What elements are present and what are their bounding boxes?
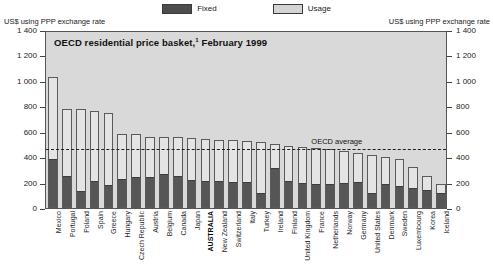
- y-tick-left-1200: [40, 56, 45, 57]
- bar-ireland: [270, 144, 280, 208]
- chart-root: Fixed Usage US$ using PPP exchange rate …: [0, 0, 493, 276]
- bar-series-container: [46, 32, 446, 208]
- x-label-poland: Poland: [83, 211, 90, 233]
- y-tick-right-600: [447, 133, 452, 134]
- bar-spain: [90, 111, 100, 208]
- y-tick-left-400: [40, 158, 45, 159]
- y-axis-caption-left: US$ using PPP exchange rate: [4, 17, 105, 26]
- bar-denmark: [381, 157, 391, 208]
- x-label-iceland: Iceland: [443, 211, 450, 234]
- bar-fixed-segment: [229, 182, 237, 207]
- legend-entry-fixed: Fixed: [162, 4, 217, 14]
- bar-greece: [104, 113, 114, 208]
- chart-legend: Fixed Usage: [0, 4, 493, 14]
- y-tick-label-right-400: 400: [456, 153, 469, 162]
- bar-fixed-segment: [326, 184, 334, 207]
- x-label-united-kingdom: United Kingdom: [304, 211, 311, 261]
- x-label-turkey: Turkey: [263, 211, 270, 232]
- bar-mexico: [48, 77, 58, 208]
- bar-fixed-segment: [188, 180, 196, 207]
- y-tick-label-left-1000: 1 000: [0, 77, 37, 86]
- y-tick-left-800: [40, 107, 45, 108]
- y-tick-label-left-200: 200: [0, 179, 37, 188]
- bar-fixed-segment: [437, 193, 445, 207]
- bar-iceland: [436, 184, 446, 208]
- bar-poland: [76, 109, 86, 208]
- x-label-portugal: Portugal: [69, 211, 76, 237]
- x-label-switzerland: Switzerland: [235, 211, 242, 247]
- y-tick-left-1400: [40, 31, 45, 32]
- bar-fixed-segment: [202, 181, 210, 207]
- bar-fixed-segment: [146, 177, 154, 207]
- x-label-norway: Norway: [346, 211, 353, 235]
- legend-label-fixed: Fixed: [197, 5, 217, 13]
- y-tick-label-left-600: 600: [0, 128, 37, 137]
- y-tick-label-right-1400: 1 400: [456, 26, 476, 35]
- x-label-greece: Greece: [110, 211, 117, 234]
- bar-united-states: [367, 155, 377, 208]
- bar-fixed-segment: [340, 183, 348, 207]
- x-label-sweden: Sweden: [401, 211, 408, 236]
- bar-belgium: [159, 137, 169, 208]
- y-tick-left-200: [40, 184, 45, 185]
- y-tick-left-0: [40, 209, 45, 210]
- x-label-netherlands: Netherlands: [332, 211, 339, 249]
- x-label-canada: Canada: [180, 211, 187, 236]
- y-tick-label-right-200: 200: [456, 179, 469, 188]
- oecd-average-label: OECD average: [311, 137, 362, 146]
- x-label-france: France: [318, 211, 325, 233]
- legend-swatch-fixed: [162, 4, 192, 14]
- bar-france: [311, 148, 321, 208]
- x-label-hungary: Hungary: [124, 211, 131, 237]
- bar-fixed-segment: [299, 183, 307, 207]
- y-tick-label-left-1200: 1 200: [0, 51, 37, 60]
- bar-turkey: [256, 142, 266, 208]
- bar-fixed-segment: [257, 193, 265, 207]
- bar-austria: [145, 137, 155, 208]
- bar-fixed-segment: [105, 185, 113, 207]
- bar-new-zealand: [214, 140, 224, 208]
- bar-norway: [339, 151, 349, 208]
- x-label-germany: Germany: [360, 211, 367, 240]
- x-label-mexico: Mexico: [55, 211, 62, 233]
- plot-area: OECD residential price basket,1 February…: [45, 31, 447, 209]
- bar-united-kingdom: [298, 147, 308, 208]
- bar-fixed-segment: [243, 182, 251, 207]
- y-tick-label-right-1200: 1 200: [456, 51, 476, 60]
- y-tick-label-left-400: 400: [0, 153, 37, 162]
- bar-fixed-segment: [271, 168, 279, 207]
- y-tick-label-left-800: 800: [0, 102, 37, 111]
- y-tick-right-1200: [447, 56, 452, 57]
- bar-hungary: [117, 134, 127, 208]
- bar-fixed-segment: [285, 181, 293, 207]
- y-tick-right-200: [447, 184, 452, 185]
- x-label-korea: Korea: [429, 211, 436, 230]
- x-label-denmark: Denmark: [388, 211, 395, 239]
- y-tick-right-400: [447, 158, 452, 159]
- x-label-united-states: United States: [374, 211, 381, 253]
- x-label-ireland: Ireland: [277, 211, 284, 232]
- oecd-average-line: [46, 149, 446, 150]
- bar-fixed-segment: [118, 179, 126, 207]
- legend-label-usage: Usage: [308, 5, 331, 13]
- y-tick-right-1000: [447, 82, 452, 83]
- bar-fixed-segment: [368, 193, 376, 207]
- y-tick-label-right-1000: 1 000: [456, 77, 476, 86]
- x-label-spain: Spain: [97, 211, 104, 229]
- x-axis-labels: MexicoPortugalPolandSpainGreeceHungaryCz…: [0, 211, 493, 276]
- x-label-new-zealand: New Zealand: [221, 211, 228, 252]
- legend-swatch-usage: [273, 4, 303, 14]
- y-tick-left-1000: [40, 82, 45, 83]
- bar-germany: [353, 153, 363, 208]
- bar-fixed-segment: [91, 181, 99, 207]
- y-tick-left-600: [40, 133, 45, 134]
- bar-fixed-segment: [174, 176, 182, 207]
- x-label-czech-republic: Czech Republic: [138, 211, 145, 260]
- bar-fixed-segment: [409, 188, 417, 207]
- bar-sweden: [395, 159, 405, 208]
- y-tick-label-left-1400: 1 400: [0, 26, 37, 35]
- x-label-australia: AUSTRALIA: [207, 211, 214, 251]
- bar-fixed-segment: [49, 159, 57, 207]
- bar-luxembourg: [408, 167, 418, 208]
- bar-switzerland: [228, 140, 238, 208]
